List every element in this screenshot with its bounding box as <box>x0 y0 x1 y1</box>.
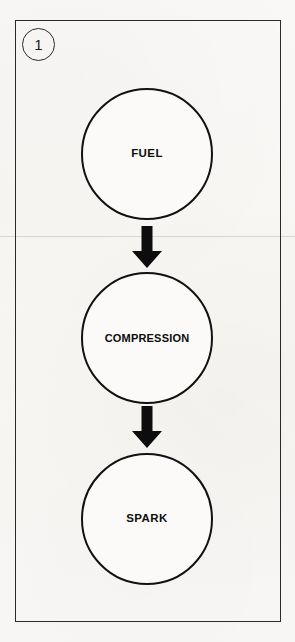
step-number-badge: 1 <box>22 28 55 61</box>
step-number-label: 1 <box>34 37 42 52</box>
arrow-down-icon-fuel-to-compression <box>130 226 164 268</box>
node-fuel-label: FUEL <box>131 148 163 160</box>
node-compression: COMPRESSION <box>81 272 213 404</box>
arrow-down-icon-compression-to-spark <box>130 406 164 448</box>
node-fuel: FUEL <box>81 88 213 220</box>
node-spark-label: SPARK <box>126 513 167 525</box>
node-compression-label: COMPRESSION <box>105 333 190 344</box>
node-spark: SPARK <box>81 453 213 585</box>
